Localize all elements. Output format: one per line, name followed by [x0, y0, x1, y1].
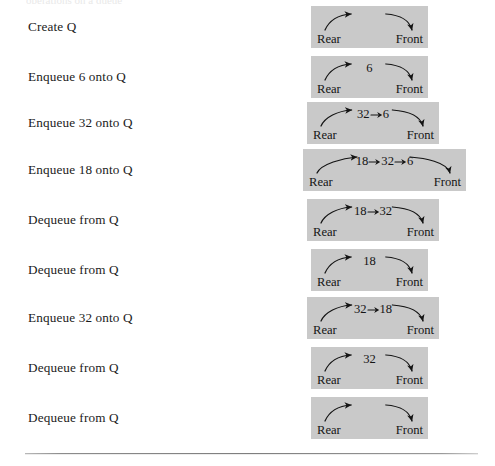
- front-label: Front: [407, 225, 434, 240]
- queue-items: 18: [311, 253, 428, 270]
- operation-label: Dequeue from Q: [28, 247, 119, 293]
- operation-label: Dequeue from Q: [28, 345, 119, 391]
- figure-row: Enqueue 18 onto QRearFront18326: [0, 147, 495, 193]
- operation-label: Enqueue 32 onto Q: [28, 100, 133, 146]
- front-label: Front: [396, 32, 423, 47]
- operation-label: Dequeue from Q: [28, 197, 119, 243]
- rear-label: Rear: [317, 423, 341, 438]
- arrow-right-icon: [394, 156, 407, 168]
- queue-diagram-panel: RearFront: [311, 6, 428, 48]
- rear-label: Rear: [317, 82, 341, 97]
- queue-item-value: 18: [356, 155, 369, 168]
- operation-label: Dequeue from Q: [28, 395, 119, 441]
- figure-row: Enqueue 32 onto QRearFront326: [0, 100, 495, 146]
- queue-item-value: 18: [354, 205, 367, 218]
- footer-rule-shadow: [25, 454, 478, 455]
- arrow-right-icon: [367, 206, 380, 218]
- front-label: Front: [434, 175, 461, 190]
- queue-items: 326: [307, 106, 439, 123]
- queue-diagram-panel: RearFront18: [311, 249, 428, 291]
- rear-label: Rear: [317, 275, 341, 290]
- queue-diagram-panel: RearFront326: [307, 102, 439, 144]
- queue-diagram-panel: RearFront32: [311, 347, 428, 389]
- queue-diagram-panel: RearFront3218: [307, 297, 439, 339]
- rear-label: Rear: [313, 323, 337, 338]
- queue-diagram-panel: RearFront1832: [307, 199, 439, 241]
- queue-operations-figure: Create QRearFrontEnqueue 6 onto QRearFro…: [0, 0, 495, 466]
- queue-item-value: 32: [357, 108, 370, 121]
- queue-item-value: 18: [363, 255, 376, 268]
- queue-items: 6: [311, 60, 428, 77]
- queue-items: 3218: [307, 301, 439, 318]
- figure-row: Dequeue from QRearFront1832: [0, 197, 495, 243]
- figure-row: Create QRearFront: [0, 4, 495, 50]
- rear-label: Rear: [313, 128, 337, 143]
- queue-items: 32: [311, 351, 428, 368]
- queue-items: 18326: [303, 153, 466, 170]
- rear-label: Rear: [317, 32, 341, 47]
- arrow-right-icon: [368, 156, 381, 168]
- figure-row: Dequeue from QRearFront: [0, 395, 495, 441]
- front-label: Front: [407, 128, 434, 143]
- queue-item-value: 32: [354, 303, 367, 316]
- operation-label: Enqueue 6 onto Q: [28, 54, 126, 100]
- queue-item-value: 18: [380, 303, 393, 316]
- arrow-right-icon: [367, 304, 380, 316]
- figure-row: Enqueue 6 onto QRearFront6: [0, 54, 495, 100]
- rear-label: Rear: [313, 225, 337, 240]
- figure-row: Dequeue from QRearFront18: [0, 247, 495, 293]
- arrow-right-icon: [370, 109, 383, 121]
- front-label: Front: [396, 275, 423, 290]
- figure-row: Enqueue 32 onto QRearFront3218: [0, 295, 495, 341]
- front-label: Front: [407, 323, 434, 338]
- operation-label: Enqueue 18 onto Q: [28, 147, 133, 193]
- queue-item-value: 6: [366, 62, 372, 75]
- queue-item-value: 32: [380, 205, 393, 218]
- front-label: Front: [396, 373, 423, 388]
- queue-item-value: 6: [383, 108, 389, 121]
- queue-item-value: 32: [381, 155, 394, 168]
- queue-diagram-panel: RearFront6: [311, 56, 428, 98]
- queue-items: 1832: [307, 203, 439, 220]
- queue-item-value: 32: [363, 353, 376, 366]
- operation-label: Create Q: [28, 4, 76, 50]
- queue-diagram-panel: RearFront: [311, 397, 428, 439]
- figure-row: Dequeue from QRearFront32: [0, 345, 495, 391]
- queue-item-value: 6: [407, 155, 413, 168]
- front-label: Front: [396, 423, 423, 438]
- operation-label: Enqueue 32 onto Q: [28, 295, 133, 341]
- rear-label: Rear: [317, 373, 341, 388]
- front-label: Front: [396, 82, 423, 97]
- rear-label: Rear: [309, 175, 333, 190]
- queue-diagram-panel: RearFront18326: [303, 149, 466, 191]
